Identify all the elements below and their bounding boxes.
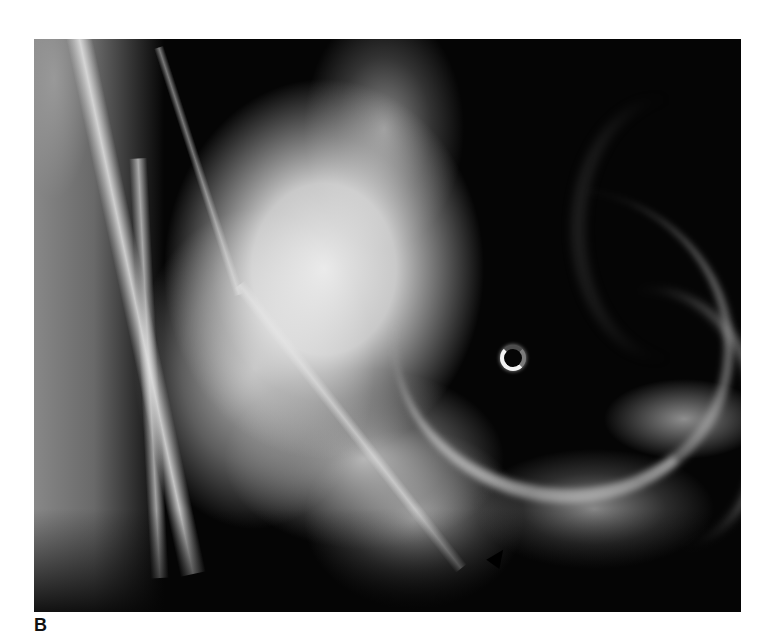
radiograph-image	[34, 39, 741, 612]
ring-marker-icon	[500, 345, 526, 371]
panel-label: B	[34, 616, 47, 634]
figure-panel: B	[0, 0, 758, 639]
bottom-shadow	[34, 39, 741, 612]
